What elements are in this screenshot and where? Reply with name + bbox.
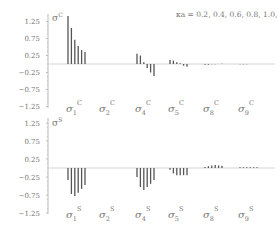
- category-label: σ4C: [135, 99, 151, 117]
- category-label: σ2S: [99, 205, 114, 223]
- category-label: σ1S: [66, 205, 81, 223]
- y-tick-label: −0.25: [19, 69, 40, 77]
- chart-panel-sine: 1.250.750.25−0.25−0.75−1.25σSσ1Sσ2Sσ4Sσ5…: [19, 116, 275, 223]
- y-tick-label: −0.25: [19, 174, 40, 182]
- category-label: σ2C: [99, 99, 115, 117]
- y-tick-label: 0.75: [24, 138, 40, 146]
- y-axis-label: σS: [52, 116, 62, 128]
- y-axis-label: σC: [52, 11, 63, 23]
- y-tick-label: −0.75: [19, 86, 40, 94]
- y-tick-label: 1.25: [24, 18, 40, 26]
- y-tick-label: 0.75: [24, 35, 40, 43]
- category-label: σ5S: [168, 205, 183, 223]
- category-label: σ9S: [238, 205, 253, 223]
- y-tick-label: 0.25: [24, 52, 40, 60]
- category-label: σ1C: [66, 99, 82, 117]
- chart-panel-cosine: 1.250.750.25−0.25−0.75−1.25σCσ1Cσ2Cσ4Cσ5…: [19, 11, 275, 117]
- y-tick-label: 1.25: [24, 120, 40, 128]
- category-label: σ8S: [203, 205, 218, 223]
- kappa-a-annotation: κa = 0.2, 0.4, 0.6, 0.8, 1.0, 1.2: [176, 10, 278, 19]
- category-label: σ5C: [168, 99, 184, 117]
- y-tick-label: −1.25: [19, 103, 40, 111]
- category-label: σ8C: [203, 99, 219, 117]
- y-tick-label: 0.25: [24, 156, 40, 164]
- y-tick-label: −1.25: [19, 210, 40, 218]
- category-label: σ9C: [238, 99, 254, 117]
- y-tick-label: −0.75: [19, 192, 40, 200]
- sigma-bar-chart: 1.250.750.25−0.25−0.75−1.25σCσ1Cσ2Cσ4Cσ5…: [0, 0, 278, 238]
- category-label: σ4S: [135, 205, 150, 223]
